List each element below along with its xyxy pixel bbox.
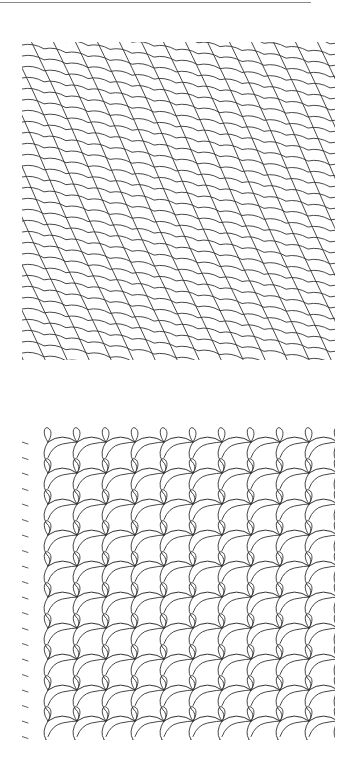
looped-net-graphic <box>22 420 335 740</box>
lattice-graphic <box>22 42 335 360</box>
top-divider-line <box>0 2 311 3</box>
diagonal-lattice-pattern <box>22 42 335 360</box>
looped-net-pattern <box>22 420 335 740</box>
